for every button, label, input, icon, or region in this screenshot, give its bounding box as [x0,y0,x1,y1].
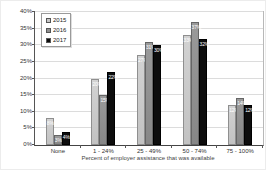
bar-2016-50 - 74%: 37% [191,22,199,145]
bar-2017-None: 4% [62,132,70,145]
bar-2017-25 - 49%: 30% [153,45,161,145]
bar-value-label: 32% [200,41,206,47]
legend-item-2016: 2016 [46,27,66,33]
y-tick-label: 30% [13,41,32,48]
legend-label: 2017 [53,37,66,43]
y-tick-label: 15% [13,91,32,98]
y-tick-label: 25% [13,58,32,65]
bar-value-label: 33% [184,37,190,43]
y-tick-mark [32,44,35,45]
bar-2015-None: 8% [46,118,54,145]
y-tick-mark [32,78,35,79]
bar-value-label: 8% [47,120,53,126]
bar-2016-25 - 49%: 31% [145,42,153,145]
y-tick-mark [32,28,35,29]
x-tick-label: 75 - 100% [217,148,263,155]
bar-value-label: 4% [63,134,69,140]
x-tick-label: 25 - 49% [126,148,172,155]
bar-2017-50 - 74%: 32% [199,39,207,145]
x-tick-label: None [35,148,81,155]
legend: 201520162017 [41,13,71,47]
bar-value-label: 12% [229,107,235,113]
bar-value-label: 15% [100,97,106,103]
y-tick-mark [32,11,35,12]
bar-value-label: 27% [138,57,144,63]
bar-value-label: 3% [55,137,61,143]
y-tick-label: 0% [13,141,32,148]
y-tick-label: 35% [13,25,32,32]
bar-value-label: 20% [92,81,98,87]
bar-value-label: 14% [237,100,243,106]
grouped-bar-chart: Percent of respondents 0%5%10%15%20%25%3… [0,0,266,170]
y-tick-mark [32,94,35,95]
y-tick-mark [32,127,35,128]
bar-2017-1 - 24%: 22% [107,72,115,145]
x-tick-label: 1 - 24% [81,148,127,155]
bar-2016-None: 3% [54,135,62,145]
bar-value-label: 22% [108,74,114,80]
y-tick-mark [32,144,35,145]
bar-2015-25 - 49%: 27% [137,55,145,145]
bar-2016-75 - 100%: 14% [236,98,244,145]
x-tick-label: 50 - 74% [172,148,218,155]
y-tick-mark [32,111,35,112]
y-tick-label: 20% [13,75,32,82]
legend-item-2017: 2017 [46,37,66,43]
y-tick-label: 5% [13,124,32,131]
y-tick-mark [32,61,35,62]
legend-swatch [46,28,51,33]
y-tick-label: 40% [13,8,32,15]
legend-item-2015: 2015 [46,17,66,23]
bar-value-label: 30% [154,47,160,53]
bar-2015-75 - 100%: 12% [228,105,236,145]
bar-value-label: 37% [192,24,198,30]
legend-swatch [46,38,51,43]
bar-2017-75 - 100%: 12% [244,105,252,145]
legend-label: 2016 [53,27,66,33]
bar-value-label: 12% [245,107,251,113]
y-tick-label: 10% [13,108,32,115]
x-tick-mark [262,145,263,148]
bar-2015-50 - 74%: 33% [183,35,191,145]
legend-label: 2015 [53,17,66,23]
bar-2015-1 - 24%: 20% [91,79,99,146]
bar-value-label: 31% [146,44,152,50]
x-axis-title: Percent of employer assistance that was … [34,155,262,161]
legend-swatch [46,18,51,23]
bar-2016-1 - 24%: 15% [99,95,107,145]
gridline [35,11,263,12]
